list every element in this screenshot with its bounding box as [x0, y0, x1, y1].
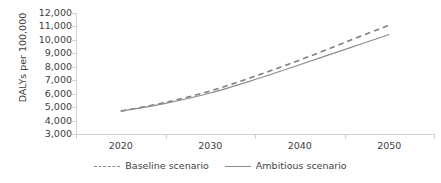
- y-tick-mark: [71, 134, 76, 135]
- legend-item-baseline[interactable]: Baseline scenario: [94, 160, 209, 172]
- y-tick-mark: [71, 94, 76, 95]
- series-line-ambitious: [121, 35, 390, 112]
- chart-legend: Baseline scenario Ambitious scenario: [0, 160, 441, 172]
- y-tick-mark: [71, 13, 76, 14]
- y-tick-mark: [71, 53, 76, 54]
- y-tick-mark: [71, 121, 76, 122]
- legend-label-ambitious: Ambitious scenario: [256, 160, 347, 172]
- y-tick-mark: [71, 107, 76, 108]
- series-layer: [0, 0, 441, 183]
- y-tick-mark: [71, 67, 76, 68]
- y-tick-mark: [71, 40, 76, 41]
- series-line-baseline: [121, 25, 390, 111]
- legend-label-baseline: Baseline scenario: [125, 160, 209, 172]
- line-chart: DALYs per 100,000 3,0004,0005,0006,0007,…: [0, 0, 441, 183]
- y-tick-mark: [71, 26, 76, 27]
- y-tick-mark: [71, 80, 76, 81]
- legend-item-ambitious[interactable]: Ambitious scenario: [225, 160, 347, 172]
- legend-swatch-solid-icon: [225, 166, 251, 167]
- legend-swatch-dashed-icon: [94, 166, 120, 167]
